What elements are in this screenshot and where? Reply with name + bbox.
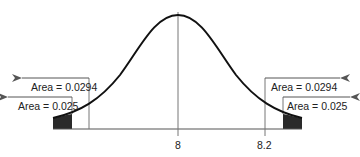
mean-tick-label: 8 — [175, 139, 181, 151]
left-inner-area-label: Area = 0.025 — [18, 100, 79, 112]
normal-curve-diagram: Area = 0.0294 Area = 0.025 Area = 0.0294… — [0, 0, 360, 157]
cutoff-tick-label: 8.2 — [257, 139, 272, 151]
right-inner-area-label: Area = 0.025 — [287, 100, 348, 112]
left-outer-area-label: Area = 0.0294 — [31, 81, 97, 93]
right-outer-area-label: Area = 0.0294 — [271, 81, 337, 93]
